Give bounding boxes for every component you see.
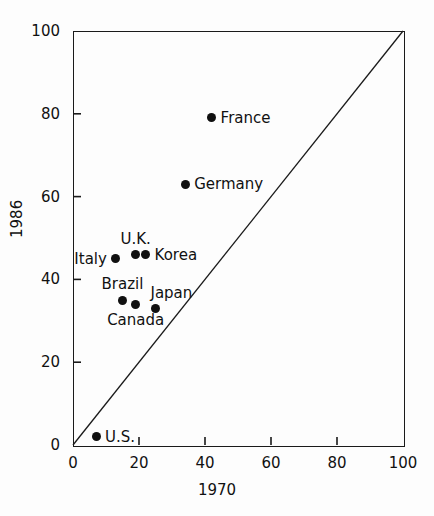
data-point-label: Italy <box>74 250 107 268</box>
data-point-label: Germany <box>194 175 263 193</box>
data-point-label: Canada <box>107 311 164 329</box>
x-tick-label: 0 <box>68 454 78 472</box>
x-tick-label: 40 <box>195 454 214 472</box>
scatter-plot-figure: 020406080100 020406080100 FranceGermanyU… <box>0 0 434 516</box>
x-axis-title: 1970 <box>0 481 434 499</box>
data-point-marker <box>92 432 101 441</box>
data-point-label: Japan <box>150 284 192 302</box>
y-tick-label: 100 <box>0 22 60 40</box>
y-axis-title: 1986 <box>8 200 26 238</box>
x-tick-label: 100 <box>389 454 418 472</box>
y-tick-label: 80 <box>0 105 60 123</box>
y-tick-label: 20 <box>0 353 60 371</box>
data-point-marker <box>181 180 190 189</box>
data-point-label: U.S. <box>105 428 135 446</box>
data-point-marker <box>118 296 127 305</box>
data-point-label: Brazil <box>102 275 144 293</box>
x-tick-label: 80 <box>327 454 346 472</box>
data-point-label: U.K. <box>121 230 151 248</box>
y-tick-label: 40 <box>0 270 60 288</box>
y-tick-label: 0 <box>0 436 60 454</box>
data-point-marker <box>151 304 160 313</box>
data-point-marker <box>131 300 140 309</box>
data-point-label: France <box>221 109 271 127</box>
x-tick-label: 20 <box>129 454 148 472</box>
x-tick-label: 60 <box>261 454 280 472</box>
data-point-label: Korea <box>155 246 198 264</box>
